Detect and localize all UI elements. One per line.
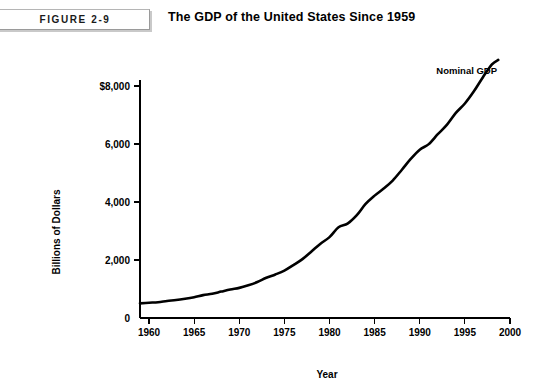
series-group [140, 60, 498, 303]
y-tick-label: $8,000 [99, 81, 130, 92]
y-tick-label: 4,000 [105, 197, 130, 208]
x-axis-title: Year [316, 369, 337, 380]
y-tick-label: 6,000 [105, 139, 130, 150]
y-tick-label: 0 [124, 313, 130, 324]
figure-number-label: FIGURE 2-9 [25, 14, 110, 25]
x-tick-label: 1990 [409, 327, 432, 338]
x-axis-ticks: 196019651970197519801985199019952000 [138, 318, 522, 338]
x-tick-label: 2000 [499, 327, 522, 338]
y-tick-label: 2,000 [105, 255, 130, 266]
figure-header: FIGURE 2-9 The GDP of the United States … [0, 0, 555, 46]
figure-title: The GDP of the United States Since 1959 [168, 10, 415, 24]
series-annotations: Nominal GDP [436, 65, 497, 76]
x-tick-label: 1960 [138, 327, 161, 338]
x-tick-label: 1975 [273, 327, 296, 338]
x-tick-label: 1985 [364, 327, 387, 338]
x-tick-label: 1965 [183, 327, 206, 338]
y-axis-ticks: 02,0004,0006,000$8,000 [99, 81, 140, 324]
series-label-nominal-gdp: Nominal GDP [436, 65, 497, 76]
x-tick-label: 1980 [318, 327, 341, 338]
x-tick-label: 1970 [228, 327, 251, 338]
series-line-nominal-gdp [140, 60, 498, 303]
chart-canvas: 02,0004,0006,000$8,000 19601965197019751… [0, 46, 555, 386]
gdp-line-chart: 02,0004,0006,000$8,000 19601965197019751… [0, 46, 555, 386]
figure-number-badge: FIGURE 2-9 [0, 9, 150, 30]
y-axis-title: Billions of Dollars [51, 189, 62, 274]
x-tick-label: 1995 [454, 327, 477, 338]
